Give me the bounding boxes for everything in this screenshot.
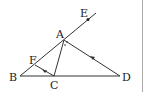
angle-mark-1	[66, 41, 68, 43]
label-b: B	[9, 71, 17, 84]
angle-mark-2	[64, 44, 66, 46]
label-a: A	[55, 28, 65, 41]
arrow-cf-icon	[42, 70, 47, 74]
label-c: C	[50, 79, 58, 92]
geometry-figure: A B C D E F	[0, 0, 144, 92]
label-d: D	[122, 71, 131, 84]
segment-ac	[54, 40, 64, 76]
label-e: E	[80, 7, 88, 20]
label-f: F	[29, 54, 37, 67]
